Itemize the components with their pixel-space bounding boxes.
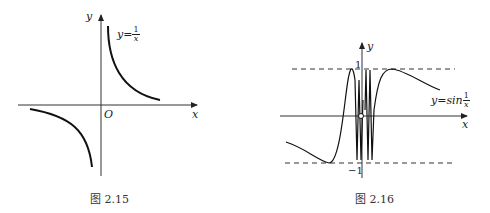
x-axis-label: x: [192, 108, 198, 121]
figure-caption: 图 2.16: [355, 190, 394, 206]
y-axis-label: y: [86, 10, 92, 23]
origin-label: O: [104, 108, 113, 121]
origin-open-point: [359, 114, 364, 119]
equation-label: y=1x: [117, 26, 140, 43]
y-axis-label: y: [367, 40, 373, 53]
x-axis-label: x: [462, 118, 468, 131]
tick-label-minus1: −1: [348, 165, 363, 176]
equation-label: y=sin1x: [431, 92, 470, 109]
figure-reciprocal: y x O y=1x 图 2.15: [0, 0, 245, 213]
figure-caption: 图 2.15: [90, 190, 129, 206]
tick-label-1: 1: [355, 59, 361, 70]
curve-negative-branch: [30, 109, 92, 167]
figure-sin-reciprocal: y x 1 −1 y=sin1x 图 2.16: [245, 0, 490, 213]
